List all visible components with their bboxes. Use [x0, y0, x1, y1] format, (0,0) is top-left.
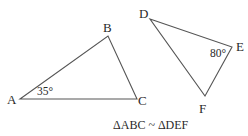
vertex-label-c: C: [138, 93, 147, 108]
vertex-label-d: D: [139, 6, 148, 21]
vertex-label-f: F: [199, 101, 206, 116]
vertex-label-a: A: [7, 92, 17, 107]
similarity-caption: ΔABC ~ ΔDEF: [113, 118, 189, 132]
angle-label-e: 80°: [210, 47, 227, 59]
vertex-label-b: B: [103, 20, 112, 35]
angle-label-a: 35°: [37, 85, 54, 97]
similar-triangles-diagram: A B C 35° D E F 80° ΔABC ~ ΔDEF: [0, 0, 248, 136]
vertex-label-e: E: [236, 39, 244, 54]
